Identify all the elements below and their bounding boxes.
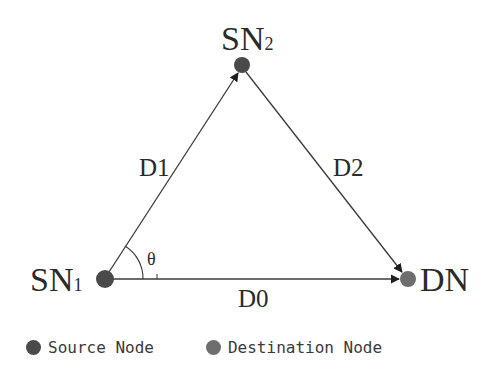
node-sn2 [234, 57, 250, 73]
edge-label-d2: D2 [333, 155, 364, 180]
legend-item-source: Source Node [26, 338, 154, 357]
node-label-sn2-sub: 2 [264, 34, 273, 54]
destination-node-dot-icon [206, 340, 221, 355]
node-label-sn1: SN1 [30, 263, 82, 297]
legend: Source Node Destination Node [26, 338, 382, 357]
node-sn1 [96, 270, 114, 288]
node-label-dn-text: DN [420, 261, 469, 298]
angle-label-theta: θ [147, 250, 156, 268]
source-node-dot-icon [26, 340, 41, 355]
legend-item-destination: Destination Node [206, 338, 382, 357]
legend-label-destination: Destination Node [228, 338, 382, 357]
node-label-sn1-sub: 1 [73, 275, 82, 295]
diagram-canvas [0, 0, 497, 387]
edge-label-d0: D0 [238, 286, 269, 311]
edge-d2 [246, 72, 402, 272]
node-label-sn1-main: SN [30, 261, 73, 298]
edge-d1 [109, 73, 238, 272]
edge-label-d1: D1 [139, 155, 170, 180]
node-label-sn2-main: SN [221, 20, 264, 57]
legend-label-source: Source Node [48, 338, 154, 357]
node-label-dn: DN [420, 263, 469, 297]
node-dn [400, 271, 416, 287]
node-label-sn2: SN2 [221, 22, 273, 56]
angle-arc-theta [125, 246, 143, 279]
